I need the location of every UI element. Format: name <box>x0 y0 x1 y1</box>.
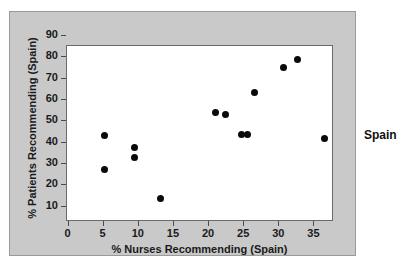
x-tick-label: 0 <box>53 227 83 240</box>
scatter-plot-figure: 102030405060708090 05101520253035 % Nurs… <box>0 0 419 270</box>
data-point <box>157 195 164 202</box>
data-point <box>212 109 219 116</box>
data-point <box>101 132 108 139</box>
plot-area <box>67 46 332 220</box>
plot-frame <box>66 45 333 221</box>
y-tick <box>61 35 66 36</box>
data-point <box>101 166 108 173</box>
x-tick <box>173 221 174 226</box>
x-tick-label: 25 <box>228 227 258 240</box>
series-label: Spain <box>364 128 397 142</box>
x-tick-label: 10 <box>123 227 153 240</box>
x-tick-label-wrap: 15 <box>158 227 188 240</box>
x-tick <box>68 221 69 226</box>
x-tick-label-wrap: 30 <box>263 227 293 240</box>
x-tick <box>138 221 139 226</box>
x-tick <box>243 221 244 226</box>
chart-panel: 102030405060708090 05101520253035 % Nurs… <box>9 11 356 256</box>
x-tick-label-wrap: 0 <box>53 227 83 240</box>
data-point <box>294 56 301 63</box>
x-tick-label: 5 <box>88 227 118 240</box>
data-point <box>222 111 229 118</box>
x-tick <box>103 221 104 226</box>
x-tick <box>208 221 209 226</box>
data-point <box>251 89 258 96</box>
x-tick <box>313 221 314 226</box>
x-tick-label-wrap: 20 <box>193 227 223 240</box>
data-point <box>131 154 138 161</box>
data-point <box>280 64 287 71</box>
x-tick-label: 30 <box>263 227 293 240</box>
x-tick-label-wrap: 35 <box>298 227 328 240</box>
x-tick-label: 35 <box>298 227 328 240</box>
x-axis-title: % Nurses Recommending (Spain) <box>66 243 333 255</box>
y-axis-title: % Patients Recommending (Spain) <box>26 33 38 223</box>
x-tick-label: 15 <box>158 227 188 240</box>
x-tick-label-wrap: 25 <box>228 227 258 240</box>
data-point <box>244 131 251 138</box>
x-tick <box>278 221 279 226</box>
x-tick-label: 20 <box>193 227 223 240</box>
data-point <box>131 144 138 151</box>
x-tick-label-wrap: 10 <box>123 227 153 240</box>
x-tick-label-wrap: 5 <box>88 227 118 240</box>
data-point <box>321 135 328 142</box>
